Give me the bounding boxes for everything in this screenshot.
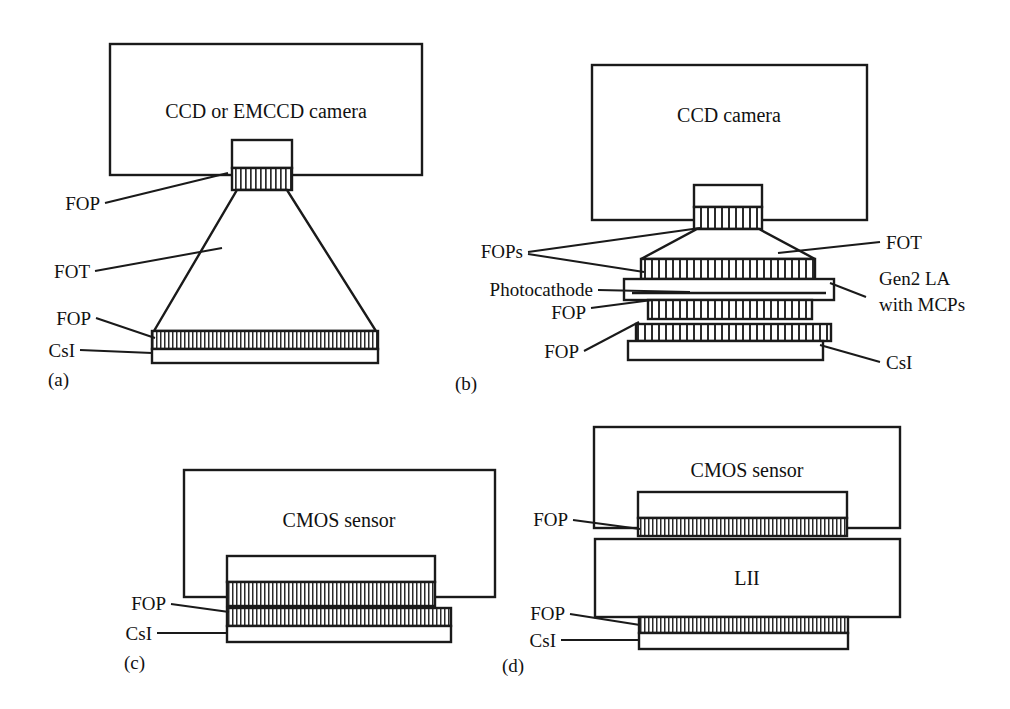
panel-a-fop-bottom-leader: [96, 318, 155, 338]
panel-b-fop-coupler-hatched: [694, 207, 762, 229]
panel-b-gen2-la-body: [624, 279, 834, 300]
figure-root: CCD or EMCCD camera FOP FOT FOP CsI (a) …: [0, 0, 1010, 709]
panel-a-fot-label: FOT: [54, 261, 90, 282]
panel-a-fot-taper: [154, 190, 376, 331]
panel-a-csi-layer: [152, 349, 378, 363]
panel-b-gen2-label-line1: Gen2 LA: [879, 268, 951, 289]
panel-b-fop-bottom-label: FOP: [544, 341, 579, 362]
panel-d-fop-top-label: FOP: [533, 509, 568, 530]
panel-b-fops-leader-lower: [528, 254, 644, 272]
panel-b-photocathode-label: Photocathode: [490, 279, 593, 300]
panel-b-fop-coupler-white: [694, 185, 762, 207]
panel-c-id: (c): [124, 652, 145, 674]
panel-c-sensor-label: CMOS sensor: [283, 509, 396, 531]
panel-a-camera-label: CCD or EMCCD camera: [165, 100, 367, 122]
panel-c: CMOS sensor FOP CsI (c): [124, 470, 495, 674]
panel-a: CCD or EMCCD camera FOP FOT FOP CsI (a): [48, 44, 422, 391]
panel-b-gen2-leader: [830, 283, 866, 297]
panel-c-coupler-white: [227, 556, 435, 582]
panel-b-id: (b): [455, 373, 477, 395]
panel-c-fop-leader: [171, 604, 229, 612]
panel-d-csi-layer: [639, 633, 848, 649]
panel-c-csi-label: CsI: [126, 623, 152, 644]
panel-d-lii-label: LII: [734, 567, 760, 589]
panel-b-fops-plate: [641, 259, 815, 279]
panel-d: CMOS sensor LII FOP FOP CsI (d): [502, 427, 900, 677]
panel-c-fop-upper: [227, 582, 435, 606]
panel-b-fop-mid-plate: [648, 300, 812, 319]
panel-a-fop-bottom-label: FOP: [56, 308, 91, 329]
panel-b-fop-bottom-plate: [636, 324, 831, 341]
panel-a-fop-bottom-plate: [152, 331, 378, 349]
panel-d-coupler-white: [638, 492, 847, 518]
panel-a-fop-top-white: [232, 140, 292, 168]
panel-a-csi-leader: [80, 350, 152, 353]
panel-d-fop-bottom-label: FOP: [530, 603, 565, 624]
panel-a-fop-top-hatched: [232, 168, 292, 190]
panel-b-fop-mid-label: FOP: [551, 302, 586, 323]
panel-a-fop-top-label: FOP: [65, 193, 100, 214]
panel-a-id: (a): [48, 369, 69, 391]
panel-d-csi-label: CsI: [530, 630, 556, 651]
panel-b: CCD camera FOPs FOT Photocathode Gen2 LA: [455, 65, 965, 395]
panel-c-fop-label: FOP: [131, 593, 166, 614]
detector-configurations-diagram: CCD or EMCCD camera FOP FOT FOP CsI (a) …: [0, 0, 1010, 709]
panel-d-fop-bottom: [639, 617, 848, 633]
panel-d-sensor-label: CMOS sensor: [691, 459, 804, 481]
panel-b-gen2-label-line2: with MCPs: [879, 294, 965, 315]
panel-b-fop-mid-leader: [591, 300, 652, 308]
panel-a-csi-label: CsI: [49, 340, 75, 361]
panel-b-csi-layer: [628, 341, 823, 360]
panel-b-fot-label: FOT: [886, 232, 922, 253]
panel-b-csi-label: CsI: [886, 352, 912, 373]
panel-c-csi-layer: [227, 626, 451, 642]
panel-d-id: (d): [502, 655, 524, 677]
panel-c-fop-lower: [227, 608, 451, 626]
panel-a-fop-top-leader: [105, 173, 228, 203]
panel-b-csi-leader: [820, 345, 880, 362]
panel-b-fops-label: FOPs: [481, 241, 523, 262]
panel-b-camera-label: CCD camera: [677, 104, 781, 126]
panel-d-fop-top: [638, 518, 847, 536]
